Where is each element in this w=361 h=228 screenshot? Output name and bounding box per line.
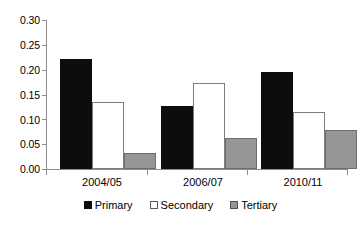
legend-item-tertiary[interactable]: Tertiary bbox=[230, 199, 277, 211]
y-tick-label-text: 0.30 bbox=[8, 15, 40, 26]
y-tick-label-0.25: 0.25 bbox=[4, 40, 40, 51]
bar-secondary-2006-07[interactable] bbox=[193, 83, 225, 169]
x-axis-label-2010-11: 2010/11 bbox=[263, 176, 343, 188]
bar-chart: 0.30 0.25 0.20 0.15 0.10 0.05 0.00 bbox=[0, 0, 361, 228]
x-axis-label-2006-07: 2006/07 bbox=[163, 176, 243, 188]
y-tick-label-0.00: 0.00 bbox=[4, 164, 40, 175]
y-tick-label-text: 0.00 bbox=[8, 164, 40, 175]
y-tick-label-0.05: 0.05 bbox=[4, 139, 40, 150]
y-tick-label-text: 0.20 bbox=[8, 65, 40, 76]
y-tick-label-text: 0.10 bbox=[8, 115, 40, 126]
x-tick-mark-start bbox=[46, 170, 47, 175]
y-tick-label-0.30: 0.30 bbox=[4, 15, 40, 26]
bar-secondary-2010-11[interactable] bbox=[293, 112, 325, 169]
legend-swatch-white-icon bbox=[150, 201, 158, 209]
y-tick-label-0.20: 0.20 bbox=[4, 65, 40, 76]
y-tick-label-text: 0.25 bbox=[8, 40, 40, 51]
x-axis-label-2004-05: 2004/05 bbox=[62, 176, 142, 188]
x-tick-mark-1 bbox=[147, 170, 148, 175]
legend-label-tertiary: Tertiary bbox=[241, 199, 277, 211]
y-tick-label-text: 0.05 bbox=[8, 139, 40, 150]
legend-item-primary[interactable]: Primary bbox=[84, 199, 133, 211]
legend-item-secondary[interactable]: Secondary bbox=[150, 199, 214, 211]
legend-swatch-gray-icon bbox=[230, 201, 238, 209]
y-tick-label-text: 0.15 bbox=[8, 90, 40, 101]
x-tick-mark-2 bbox=[247, 170, 248, 175]
bar-tertiary-2010-11[interactable] bbox=[325, 130, 357, 169]
chart-legend: Primary Secondary Tertiary bbox=[0, 199, 361, 211]
legend-swatch-black-icon bbox=[84, 201, 92, 209]
plot-area bbox=[47, 20, 348, 169]
bar-tertiary-2004-05[interactable] bbox=[124, 153, 156, 169]
bar-primary-2010-11[interactable] bbox=[261, 72, 293, 169]
bar-tertiary-2006-07[interactable] bbox=[225, 138, 257, 169]
legend-label-secondary: Secondary bbox=[161, 199, 214, 211]
bar-primary-2004-05[interactable] bbox=[60, 59, 92, 169]
y-tick-label-0.15: 0.15 bbox=[4, 90, 40, 101]
bar-primary-2006-07[interactable] bbox=[161, 106, 193, 169]
legend-label-primary: Primary bbox=[95, 199, 133, 211]
x-axis-line bbox=[46, 169, 348, 170]
x-tick-mark-end bbox=[347, 170, 348, 175]
bar-secondary-2004-05[interactable] bbox=[92, 102, 124, 169]
y-tick-label-0.10: 0.10 bbox=[4, 115, 40, 126]
